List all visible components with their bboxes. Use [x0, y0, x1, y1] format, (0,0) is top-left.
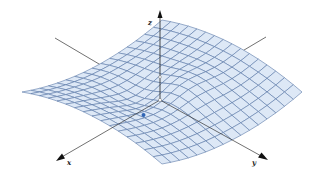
x-axis-label: x: [66, 158, 72, 167]
y-axis-arrowhead: [258, 153, 268, 161]
y-axis-label: y: [251, 158, 257, 167]
origin-marker: [158, 98, 161, 101]
x-axis-arrowhead: [56, 154, 65, 162]
surface-mesh: [22, 20, 302, 164]
surface-plot: z x y: [0, 0, 319, 179]
marked-point: [142, 113, 146, 117]
z-axis-arrowhead: [158, 10, 163, 18]
z-axis-label: z: [147, 18, 153, 27]
surface-top-marker: [159, 76, 162, 79]
